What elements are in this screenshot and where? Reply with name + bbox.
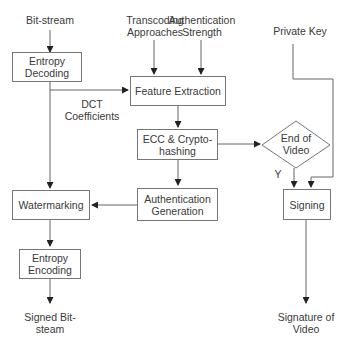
output-signature: Signature of Video [266,311,346,335]
label-yes: Y [273,168,283,180]
box-auth-generation: AuthenticationGeneration [137,188,218,221]
label-dct-coefficients: DCT Coefficients [52,98,132,122]
input-auth-strength: Authentication Strength [165,14,239,38]
box-entropy-decoding: EntropyDecoding [12,52,82,82]
box-ecc-hashing: ECC & Crypto-hashing [137,129,218,160]
output-signed-bitstream: Signed Bit- steam [14,311,86,335]
box-signing: Signing [283,189,331,220]
input-bitstream: Bit-stream [22,14,78,26]
input-private-key: Private Key [270,25,330,37]
box-watermarking: Watermarking [12,190,90,220]
decision-end-of-video: End of Video [266,132,326,156]
box-feature-extraction: Feature Extraction [130,76,226,106]
box-entropy-encoding: EntropyEncoding [19,249,81,279]
